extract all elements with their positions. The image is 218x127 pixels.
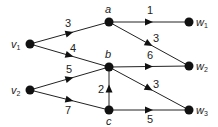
arrowhead-icon xyxy=(144,39,153,46)
node-label: b xyxy=(105,48,111,60)
node-v2: v2 xyxy=(11,84,35,97)
arrowhead-icon xyxy=(65,76,74,83)
edge-weight: 5 xyxy=(66,63,72,75)
node-label: w3 xyxy=(196,104,208,117)
node-dot xyxy=(26,86,35,95)
node-label: v1 xyxy=(11,38,21,51)
arrowhead-icon xyxy=(106,85,113,93)
node-label: w2 xyxy=(196,60,208,73)
node-dot xyxy=(105,63,114,72)
edge-weight: 1 xyxy=(147,4,153,16)
edge-a-w1: 1 xyxy=(109,4,189,26)
edge-weight: 4 xyxy=(70,42,76,54)
node-dot xyxy=(185,106,194,115)
node-dot xyxy=(105,106,114,115)
node-w3: w3 xyxy=(185,104,208,117)
edge-weight: 2 xyxy=(98,83,104,95)
arrowhead-icon xyxy=(65,31,74,38)
node-c: c xyxy=(105,106,114,127)
node-label: w1 xyxy=(196,16,208,29)
node-label: c xyxy=(106,115,112,126)
edge-weight: 3 xyxy=(153,32,159,44)
edge-weight: 5 xyxy=(147,113,153,125)
edge-v1-a: 3 xyxy=(30,17,109,44)
node-a: a xyxy=(105,3,114,27)
edge-c-b: 2 xyxy=(98,67,113,110)
node-dot xyxy=(26,40,35,49)
node-dot xyxy=(105,18,114,27)
node-b: b xyxy=(105,48,114,72)
node-label: a xyxy=(105,3,111,15)
edge-weight: 6 xyxy=(147,49,153,61)
edge-weight: 3 xyxy=(153,78,159,90)
graph-diagram: 3457136325v1v2abcw1w2w3 xyxy=(0,0,218,126)
node-v1: v1 xyxy=(11,38,35,51)
edge-b-w3: 3 xyxy=(109,67,189,110)
arrowhead-icon xyxy=(145,63,153,70)
arrowhead-icon xyxy=(145,19,153,26)
node-dot xyxy=(185,62,194,71)
arrowhead-icon xyxy=(65,96,74,103)
node-dot xyxy=(185,18,194,27)
edge-weight: 7 xyxy=(65,104,71,116)
edge-weight: 3 xyxy=(65,17,71,29)
graph-canvas: 3457136325v1v2abcw1w2w3 xyxy=(0,0,218,126)
node-label: v2 xyxy=(11,84,21,97)
edge-c-w3: 5 xyxy=(109,107,189,126)
node-w1: w1 xyxy=(185,16,208,29)
node-w2: w2 xyxy=(185,60,208,73)
